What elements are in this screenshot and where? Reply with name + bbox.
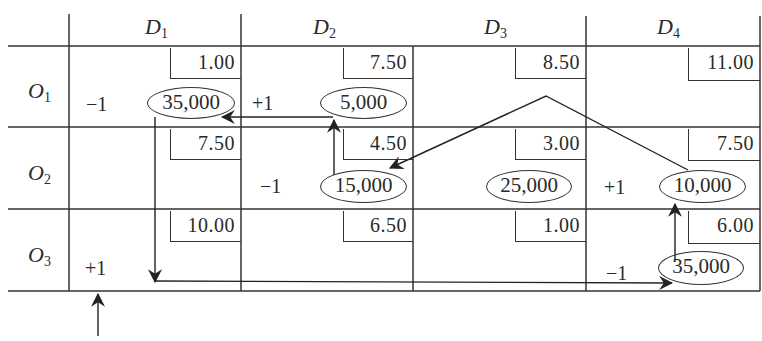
cost-o2-d4: 7.50 — [688, 129, 760, 161]
cost-o2-d3: 3.00 — [515, 129, 586, 160]
cost-o1-d3: 8.50 — [515, 48, 586, 79]
allocation-o3-d4: 35,000 — [658, 251, 744, 285]
column-header-d4: D4 — [657, 16, 680, 41]
sign-o2-d2: −1 — [260, 176, 281, 196]
allocation-o1-d2: 5,000 — [320, 87, 407, 119]
allocation-o2-d4: 10,000 — [659, 170, 746, 203]
sign-o1-d1: −1 — [86, 94, 107, 114]
column-header-d1: D1 — [145, 16, 168, 41]
sign-o3-d4: −1 — [606, 263, 627, 283]
cost-o2-d1: 7.50 — [170, 129, 241, 160]
allocation-o2-d3: 25,000 — [486, 170, 572, 203]
cost-o1-d1: 1.00 — [170, 48, 241, 79]
row-header-o1: O1 — [28, 80, 51, 105]
allocation-o2-d2: 15,000 — [320, 170, 407, 203]
row-header-o2: O2 — [28, 162, 51, 187]
sign-o2-d4: +1 — [604, 177, 625, 197]
cost-o3-d3: 1.00 — [515, 211, 586, 242]
cost-o3-d4: 6.00 — [688, 211, 760, 244]
cost-o1-d4: 11.00 — [688, 48, 760, 81]
sign-o3-d1: +1 — [85, 258, 106, 278]
column-header-d2: D2 — [313, 16, 336, 41]
allocation-o1-d1: 35,000 — [147, 87, 235, 119]
cost-o3-d1: 10.00 — [170, 211, 241, 242]
cost-o3-d2: 6.50 — [343, 211, 413, 242]
sign-o1-d2: +1 — [252, 93, 273, 113]
row-header-o3: O3 — [28, 244, 51, 269]
cost-o2-d2: 4.50 — [343, 129, 413, 160]
transportation-tableau: D1 D2 D3 D4 O1 O2 O3 1.00 7.50 8.50 11.0… — [0, 0, 762, 341]
cost-o1-d2: 7.50 — [343, 48, 413, 79]
column-header-d3: D3 — [484, 16, 507, 41]
